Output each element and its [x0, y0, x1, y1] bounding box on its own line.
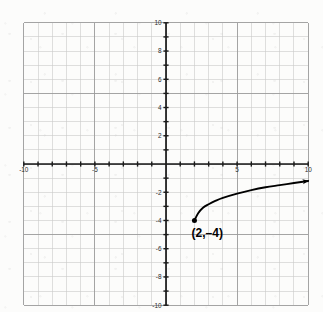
coordinate-plane-plot: -10-5510 108642-2-4-6-8-10 (2,–4) — [0, 0, 323, 312]
curve-start-point-dot — [192, 218, 197, 223]
graph-canvas: -10-5510 108642-2-4-6-8-10 (2,–4) — [0, 0, 323, 312]
x-tick-label: -5 — [92, 166, 98, 173]
y-tick-label: -8 — [156, 273, 162, 280]
y-tick-label: 2 — [158, 132, 162, 139]
y-tick-label: -10 — [152, 302, 162, 309]
y-tick-label: 8 — [158, 47, 162, 54]
start-point-label: (2,–4) — [192, 226, 223, 240]
x-tick-label: -10 — [19, 166, 29, 173]
x-tick-label: 10 — [305, 166, 313, 173]
y-tick-label: 4 — [158, 104, 162, 111]
x-tick-label: 5 — [235, 166, 239, 173]
y-tick-label: -2 — [156, 189, 162, 196]
y-tick-label: -6 — [156, 245, 162, 252]
y-tick-label: 10 — [154, 19, 162, 26]
y-tick-label: -4 — [156, 217, 162, 224]
y-tick-label: 6 — [158, 76, 162, 83]
